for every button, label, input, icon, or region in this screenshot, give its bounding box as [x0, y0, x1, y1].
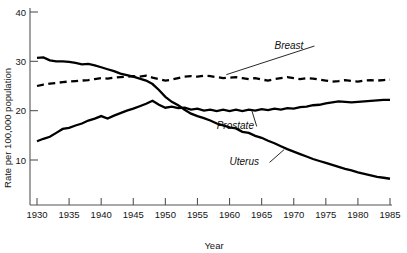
- series-annotations: Breast Prostate Uterus: [217, 40, 315, 167]
- x-tick-label: 1955: [187, 209, 208, 220]
- line-chart: 10203040 1930193519401945195019551960196…: [0, 0, 407, 253]
- x-tick-label: 1950: [155, 209, 176, 220]
- x-tick-label: 1985: [379, 209, 400, 220]
- annotation-label-prostate: Prostate: [217, 120, 255, 131]
- y-axis-title: Rate per 100,000 population: [2, 68, 13, 188]
- x-tick-label: 1980: [347, 209, 368, 220]
- y-axis-ticks: [30, 12, 38, 160]
- leader-line-breast: [226, 46, 314, 75]
- series-line-prostate: [37, 100, 390, 141]
- x-tick-label: 1970: [283, 209, 304, 220]
- x-tick-label: 1975: [315, 209, 336, 220]
- data-series-group: [37, 57, 390, 178]
- x-tick-label: 1960: [219, 209, 240, 220]
- y-tick-label: 10: [15, 155, 26, 166]
- y-tick-label: 30: [15, 56, 26, 67]
- x-tick-label: 1935: [59, 209, 80, 220]
- y-tick-label: 20: [15, 105, 26, 116]
- x-axis-ticks: [37, 198, 390, 205]
- x-tick-label: 1930: [26, 209, 47, 220]
- x-axis-title: Year: [204, 240, 223, 251]
- series-line-breast: [37, 76, 390, 86]
- x-axis-tick-labels: 1930193519401945195019551960196519701975…: [26, 209, 400, 220]
- x-tick-label: 1965: [251, 209, 272, 220]
- chart-figure: 10203040 1930193519401945195019551960196…: [0, 0, 407, 253]
- annotation-label-breast: Breast: [274, 40, 304, 51]
- axes-group: 10203040 1930193519401945195019551960196…: [15, 7, 400, 221]
- x-tick-label: 1940: [91, 209, 112, 220]
- x-tick-label: 1945: [123, 209, 144, 220]
- annotation-label-uterus: Uterus: [230, 156, 259, 167]
- leader-line-uterus: [270, 150, 285, 163]
- y-tick-label: 40: [15, 7, 26, 18]
- y-axis-tick-labels: 10203040: [15, 7, 26, 166]
